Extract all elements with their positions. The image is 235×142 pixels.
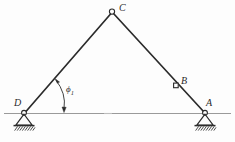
member-DC — [26, 14, 112, 113]
label-point-A: A — [206, 98, 212, 108]
diagram-canvas — [0, 0, 235, 142]
angle-phi1-arc — [56, 79, 67, 113]
label-angle-phi1: ϕ1 — [66, 85, 74, 96]
node-B-marker — [174, 83, 179, 88]
support-D-hatching — [15, 126, 35, 130]
support-A-hatching — [196, 126, 216, 130]
node-C-pin — [109, 9, 114, 14]
member-CA — [114, 14, 205, 113]
truss-diagram-figure: C D A B ϕ1 — [0, 0, 235, 142]
angle-subscript: 1 — [71, 89, 74, 96]
label-point-C: C — [119, 3, 126, 13]
label-point-B: B — [181, 76, 187, 86]
label-point-D: D — [14, 98, 21, 108]
